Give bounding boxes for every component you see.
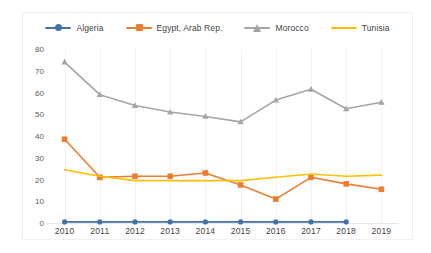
legend-swatch-icon xyxy=(331,23,357,33)
data-point-marker xyxy=(238,219,243,224)
y-axis-tick-label: 30 xyxy=(24,153,44,162)
legend-swatch-icon xyxy=(244,23,270,33)
legend-label: Tunisia xyxy=(362,23,390,33)
data-point-marker xyxy=(132,219,137,224)
legend-swatch-icon xyxy=(45,23,71,33)
data-point-marker xyxy=(238,182,244,188)
x-axis-tick-label: 2015 xyxy=(221,226,261,236)
legend-item-tunisia[interactable]: Tunisia xyxy=(331,23,390,33)
legend-swatch-icon xyxy=(126,23,152,33)
y-axis-tick-label: 20 xyxy=(24,175,44,184)
y-axis-tick-label: 10 xyxy=(24,197,44,206)
legend-label: Morocco xyxy=(275,23,308,33)
x-axis-tick-label: 2017 xyxy=(291,226,331,236)
y-axis-tick-label: 60 xyxy=(24,88,44,97)
data-point-marker xyxy=(167,173,173,179)
y-axis-tick-label: 40 xyxy=(24,132,44,141)
plot-area xyxy=(47,49,399,223)
series-morocco xyxy=(61,59,384,124)
y-axis-tick-label: 80 xyxy=(24,45,44,54)
legend-item-algeria[interactable]: Algeria xyxy=(45,23,103,33)
legend-label: Egypt, Arab Rep. xyxy=(157,23,223,33)
data-point-marker xyxy=(344,219,349,224)
data-point-marker xyxy=(273,196,279,202)
legend-item-morocco[interactable]: Morocco xyxy=(244,23,308,33)
x-axis-tick-label: 2013 xyxy=(150,226,190,236)
data-point-marker xyxy=(203,219,208,224)
data-point-marker xyxy=(343,181,349,187)
data-point-marker xyxy=(61,59,67,65)
data-point-marker xyxy=(132,173,138,179)
legend-item-egypt-arab-rep[interactable]: Egypt, Arab Rep. xyxy=(126,23,223,33)
x-axis: 2010201120122013201420152016201720182019 xyxy=(47,226,399,240)
x-axis-tick-label: 2012 xyxy=(115,226,155,236)
x-axis-tick-label: 2018 xyxy=(326,226,366,236)
series-line xyxy=(65,62,382,122)
data-point-marker xyxy=(378,99,384,105)
y-axis: 80706050403020100 xyxy=(22,49,44,223)
x-axis-tick-label: 2019 xyxy=(361,226,401,236)
y-axis-tick-label: 0 xyxy=(24,219,44,228)
x-axis-tick-label: 2014 xyxy=(185,226,225,236)
y-axis-tick-label: 70 xyxy=(24,66,44,75)
series-egypt-arab-rep xyxy=(62,136,384,201)
data-point-marker xyxy=(308,219,313,224)
data-point-marker xyxy=(62,136,68,142)
data-point-marker xyxy=(168,219,173,224)
data-point-marker xyxy=(379,186,385,192)
data-point-marker xyxy=(273,219,278,224)
data-point-marker xyxy=(62,219,67,224)
chart-legend: AlgeriaEgypt, Arab Rep.MoroccoTunisia xyxy=(22,18,413,38)
series-line xyxy=(65,139,382,199)
data-point-marker xyxy=(308,175,314,181)
x-axis-tick-label: 2011 xyxy=(80,226,120,236)
series-layer xyxy=(47,49,399,223)
data-point-marker xyxy=(203,170,209,176)
x-axis-tick-label: 2010 xyxy=(45,226,85,236)
x-axis-tick-label: 2016 xyxy=(256,226,296,236)
y-axis-tick-label: 50 xyxy=(24,110,44,119)
legend-label: Algeria xyxy=(76,23,103,33)
data-point-marker xyxy=(97,219,102,224)
chart-container: AlgeriaEgypt, Arab Rep.MoroccoTunisia 80… xyxy=(0,0,431,253)
data-point-marker xyxy=(308,86,314,92)
